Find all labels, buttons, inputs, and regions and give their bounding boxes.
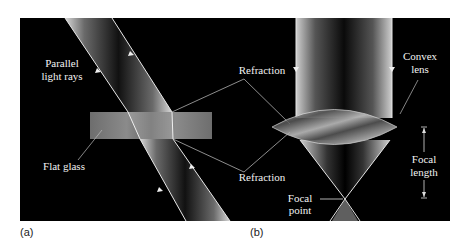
label-focal-point: Focal — [288, 192, 312, 204]
label-refraction-top: Refraction — [239, 64, 286, 76]
label-convex-lens: Convex — [403, 50, 438, 62]
label-parallel-light-rays-2: light rays — [41, 70, 82, 82]
label-parallel-light-rays: Parallel — [45, 57, 79, 69]
label-refraction-bottom: Refraction — [239, 171, 286, 183]
label-convex-lens-2: lens — [411, 63, 429, 75]
panel-label-a: (a) — [20, 226, 33, 238]
label-flat-glass: Flat glass — [43, 160, 85, 172]
label-focal-point-2: point — [289, 204, 312, 216]
label-focal-length-2: length — [410, 166, 438, 178]
refraction-diagram: Parallel light rays Flat glass Refractio… — [0, 0, 466, 240]
incoming-parallel-beam — [296, 18, 392, 118]
panel-label-b: (b) — [250, 226, 263, 238]
label-focal-length: Focal — [412, 153, 436, 165]
